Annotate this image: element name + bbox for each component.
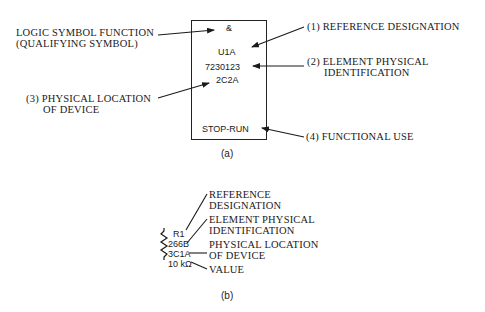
leader-b-reference [186,194,207,230]
arrow-functional-use [262,128,304,137]
leader-b-value [191,262,207,269]
arrow-logic-function [158,30,214,35]
arrow-physical-location [158,83,209,98]
arrow-reference-designation [252,27,304,47]
resistor-symbol [161,228,167,260]
leader-lines [0,0,485,312]
